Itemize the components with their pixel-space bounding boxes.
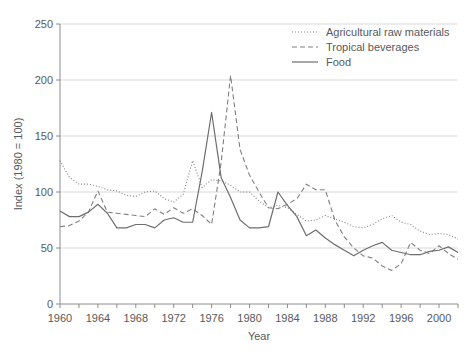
x-tick-label-1968: 1968 [124,312,148,324]
y-tick-label-100: 100 [35,186,53,198]
x-tick-label-1992: 1992 [351,312,375,324]
y-tick-label-50: 50 [41,242,53,254]
series-line-food [60,112,458,255]
y-tick-label-250: 250 [35,18,53,30]
y-tick-label-200: 200 [35,74,53,86]
x-tick-label-1988: 1988 [313,312,337,324]
y-tick-label-150: 150 [35,130,53,142]
x-tick-label-2000: 2000 [427,312,451,324]
x-tick-label-1984: 1984 [275,312,299,324]
x-axis-title: Year [248,330,271,342]
cropped-caption-strip [0,354,475,361]
legend-label-tropical-beverages: Tropical beverages [326,41,420,53]
legend-label-food: Food [326,56,351,68]
x-tick-label-1980: 1980 [237,312,261,324]
chart-figure: 0501001502002501960196419681972197619801… [0,0,475,361]
x-tick-label-1964: 1964 [86,312,110,324]
line-chart: 0501001502002501960196419681972197619801… [0,0,475,361]
y-axis-title: Index (1980 = 100) [12,118,24,211]
legend-label-agricultural-raw-materials: Agricultural raw materials [326,26,450,38]
series-line-tropical-beverages [60,76,458,271]
x-tick-label-1996: 1996 [389,312,413,324]
y-tick-label-0: 0 [47,298,53,310]
x-tick-label-1972: 1972 [161,312,185,324]
x-tick-label-1960: 1960 [48,312,72,324]
x-tick-label-1976: 1976 [199,312,223,324]
